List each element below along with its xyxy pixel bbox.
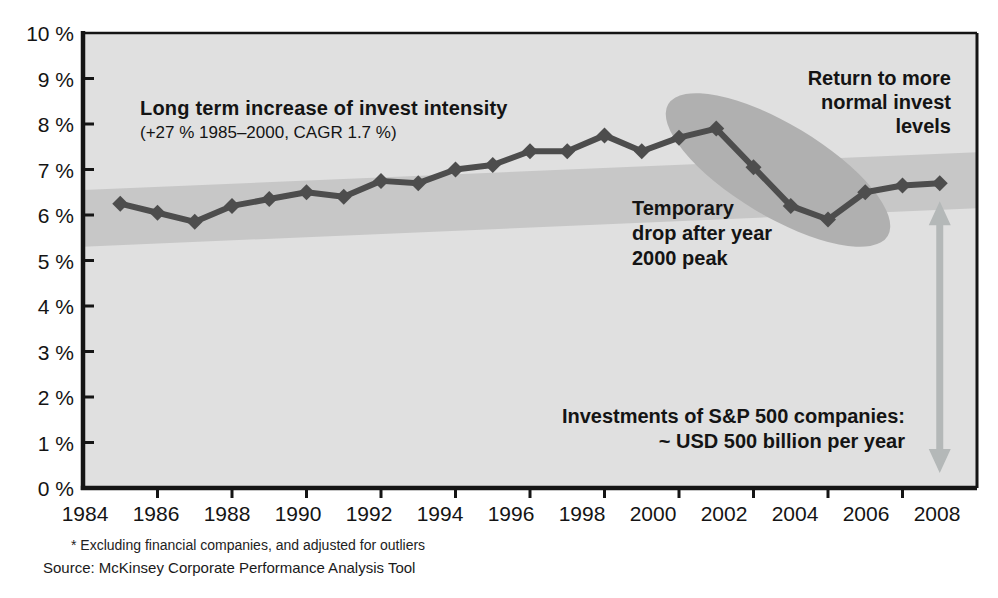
y-tick-label-10: 10 % <box>0 23 74 44</box>
x-tick-label-2002: 2002 <box>684 503 764 525</box>
y-tick-label-8: 8 % <box>0 114 74 135</box>
annotation-temporary-drop: Temporary drop after year 2000 peak <box>632 196 772 271</box>
x-tick-label-1996: 1996 <box>471 503 551 525</box>
x-tick-label-1990: 1990 <box>258 503 338 525</box>
chart-page: Long term increase of invest intensity (… <box>0 0 998 598</box>
x-tick-label-1988: 1988 <box>187 503 267 525</box>
y-tick-label-6: 6 % <box>0 205 74 226</box>
x-tick-label-1992: 1992 <box>329 503 409 525</box>
x-tick-label-2004: 2004 <box>755 503 835 525</box>
x-tick-label-2008: 2008 <box>897 503 977 525</box>
x-tick-label-2000: 2000 <box>613 503 693 525</box>
chart-title: Long term increase of invest intensity <box>140 97 508 120</box>
x-tick-label-1984: 1984 <box>45 503 125 525</box>
y-tick-label-5: 5 % <box>0 251 74 272</box>
x-tick-label-1994: 1994 <box>400 503 480 525</box>
y-tick-label-2: 2 % <box>0 387 74 408</box>
y-tick-label-0: 0 % <box>0 478 74 499</box>
source-note: Source: McKinsey Corporate Performance A… <box>43 559 415 576</box>
annotation-investments-magnitude: Investments of S&P 500 companies: ~ USD … <box>562 404 905 454</box>
footnote: * Excluding financial companies, and adj… <box>71 537 425 553</box>
chart-subtitle: (+27 % 1985–2000, CAGR 1.7 %) <box>140 123 397 143</box>
y-tick-label-7: 7 % <box>0 160 74 181</box>
y-tick-label-9: 9 % <box>0 69 74 90</box>
x-tick-label-1986: 1986 <box>116 503 196 525</box>
x-tick-label-2006: 2006 <box>826 503 906 525</box>
y-tick-label-3: 3 % <box>0 342 74 363</box>
y-tick-label-1: 1 % <box>0 433 74 454</box>
y-tick-label-4: 4 % <box>0 296 74 317</box>
annotation-return-to-normal: Return to more normal invest levels <box>808 66 951 138</box>
x-tick-label-1998: 1998 <box>542 503 622 525</box>
